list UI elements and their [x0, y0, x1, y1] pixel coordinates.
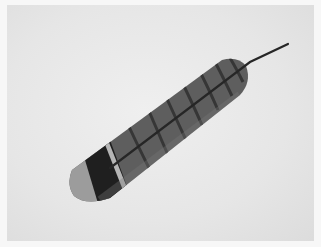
feather: [60, 44, 288, 215]
feather-illustration: [0, 0, 321, 247]
